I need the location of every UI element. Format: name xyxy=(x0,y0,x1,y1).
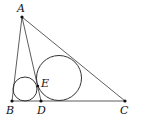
point-c xyxy=(123,99,126,102)
label-a: A xyxy=(16,2,25,15)
label-b: B xyxy=(5,104,14,117)
point-e xyxy=(37,85,39,87)
label-c: C xyxy=(120,104,129,117)
label-e: E xyxy=(40,77,49,90)
point-d xyxy=(39,99,42,102)
point-a xyxy=(20,15,23,18)
point-b xyxy=(10,99,13,102)
small-incircle xyxy=(13,77,37,101)
geometry-diagram: A B D C E xyxy=(0,0,142,118)
segment-ad xyxy=(22,17,41,101)
label-d: D xyxy=(36,104,46,117)
